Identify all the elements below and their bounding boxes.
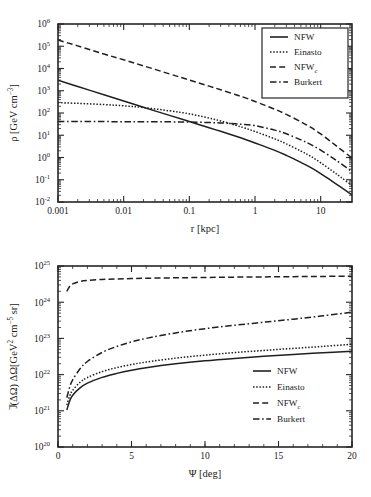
legend-label-nfw-c: NFWc: [277, 398, 300, 410]
legend-label-nfw: NFW: [294, 32, 315, 42]
legend-label-einasto: Einasto: [277, 382, 305, 392]
x-tick-label: 0.001: [47, 206, 69, 216]
x-tick-label: 1: [253, 206, 258, 216]
x-tick-label: 5: [129, 451, 134, 461]
x-tick-label: 0.01: [115, 206, 132, 216]
x-axis-label: Ψ [deg]: [189, 468, 222, 479]
legend-label-einasto: Einasto: [294, 47, 322, 57]
x-tick-label: 10: [316, 206, 326, 216]
legend-label-burkert: Burkert: [294, 77, 323, 87]
x-tick-label: 0: [56, 451, 61, 461]
figure-container: 10-210-11001011021031041051060.0010.010.…: [0, 0, 371, 497]
figure-svg: 10-210-11001011021031041051060.0010.010.…: [0, 0, 371, 497]
legend-label-nfw: NFW: [277, 366, 298, 376]
legend-label-nfw-c: NFWc: [294, 62, 317, 74]
x-tick-label: 0.1: [183, 206, 195, 216]
legend: NFWEinastoNFWcBurkert: [262, 28, 348, 98]
legend-label-burkert: Burkert: [277, 414, 306, 424]
x-tick-label: 15: [274, 451, 284, 461]
x-axis-label: r [kpc]: [191, 223, 219, 234]
x-tick-label: 10: [200, 451, 210, 461]
x-tick-label: 20: [347, 451, 357, 461]
